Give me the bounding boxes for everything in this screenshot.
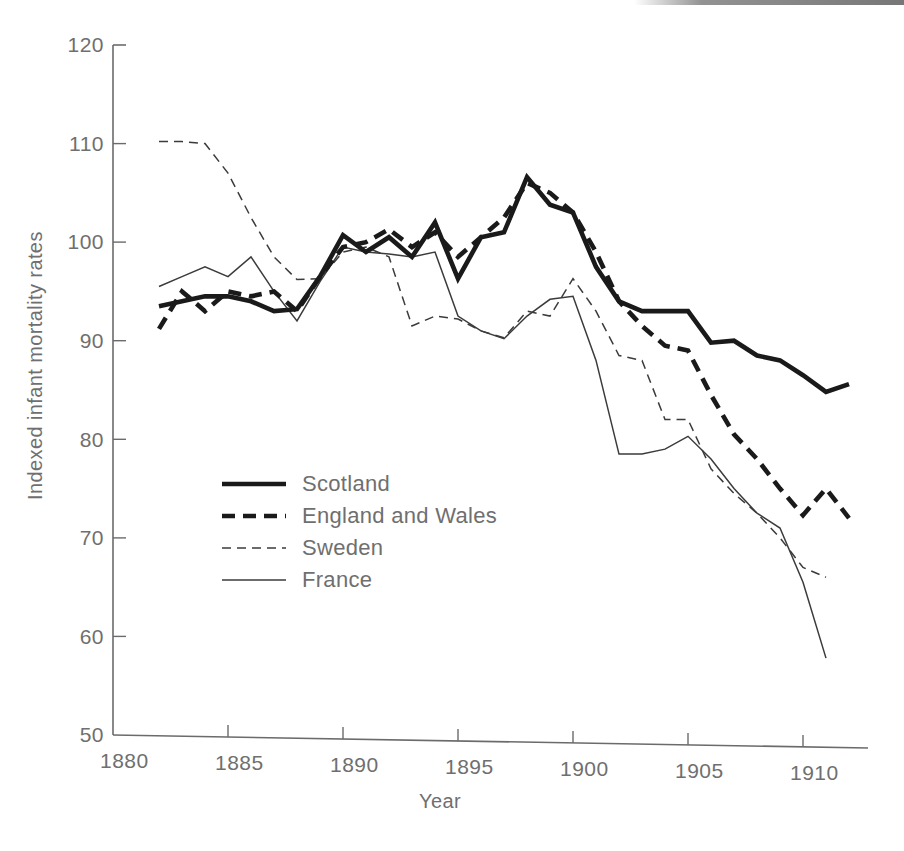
x-axis-title: Year xyxy=(419,790,461,812)
y-axis-ticks xyxy=(113,144,126,637)
series-line-france xyxy=(159,247,826,658)
y-tick-label-60: 60 xyxy=(80,625,104,648)
y-tick-label-80: 80 xyxy=(80,428,104,451)
y-tick-label-120: 120 xyxy=(67,33,104,56)
y-tick-label-110: 110 xyxy=(69,132,104,155)
y-tick-label-70: 70 xyxy=(80,526,104,549)
y-axis-title: Indexed infant mortality rates xyxy=(24,231,46,500)
legend-label-france: France xyxy=(302,567,372,593)
x-axis-ticks xyxy=(228,725,803,747)
legend-label-sweden: Sweden xyxy=(302,535,383,561)
x-tick-label-1890: 1890 xyxy=(330,753,379,776)
legend-item-sweden[interactable]: Sweden xyxy=(222,536,497,560)
legend-item-france[interactable]: France xyxy=(222,568,497,592)
chart-legend: Scotland England and Wales Sweden xyxy=(222,472,497,592)
y-tick-label-90: 90 xyxy=(80,329,104,352)
x-tick-label-1895: 1895 xyxy=(445,755,494,778)
legend-swatch-thin-solid xyxy=(222,573,286,587)
x-tick-label-1905: 1905 xyxy=(675,759,724,782)
y-tick-label-50: 50 xyxy=(80,723,104,746)
x-tick-label-1885: 1885 xyxy=(215,751,264,774)
series-line-scotland xyxy=(159,177,849,392)
x-tick-label-1910: 1910 xyxy=(790,761,839,784)
y-tick-label-100: 100 xyxy=(67,230,104,253)
legend-swatch-thick-solid xyxy=(222,477,286,491)
legend-swatch-thin-dashed xyxy=(222,541,286,555)
legend-item-scotland[interactable]: Scotland xyxy=(222,472,497,496)
x-axis-line xyxy=(113,735,868,748)
legend-label-scotland: Scotland xyxy=(302,471,390,497)
legend-label-england-and-wales: England and Wales xyxy=(302,503,497,529)
figure-container: 120 110 100 90 80 70 60 50 1880 1885 189… xyxy=(0,0,904,851)
chart-plot-area: 120 110 100 90 80 70 60 50 1880 1885 189… xyxy=(0,0,904,851)
legend-item-england-and-wales[interactable]: England and Wales xyxy=(222,504,497,528)
legend-swatch-thick-dashed xyxy=(222,509,286,523)
x-tick-label-1880: 1880 xyxy=(100,749,149,772)
x-tick-label-1900: 1900 xyxy=(560,757,609,780)
